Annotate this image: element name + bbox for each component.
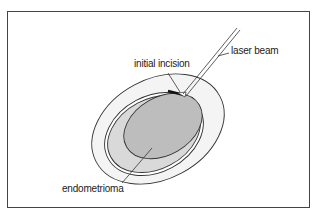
- label-laser-beam: laser beam: [231, 45, 278, 56]
- label-endometrioma: endometrioma: [62, 183, 124, 194]
- label-initial-incision: initial incision: [134, 58, 190, 69]
- diagram-canvas: [0, 0, 319, 213]
